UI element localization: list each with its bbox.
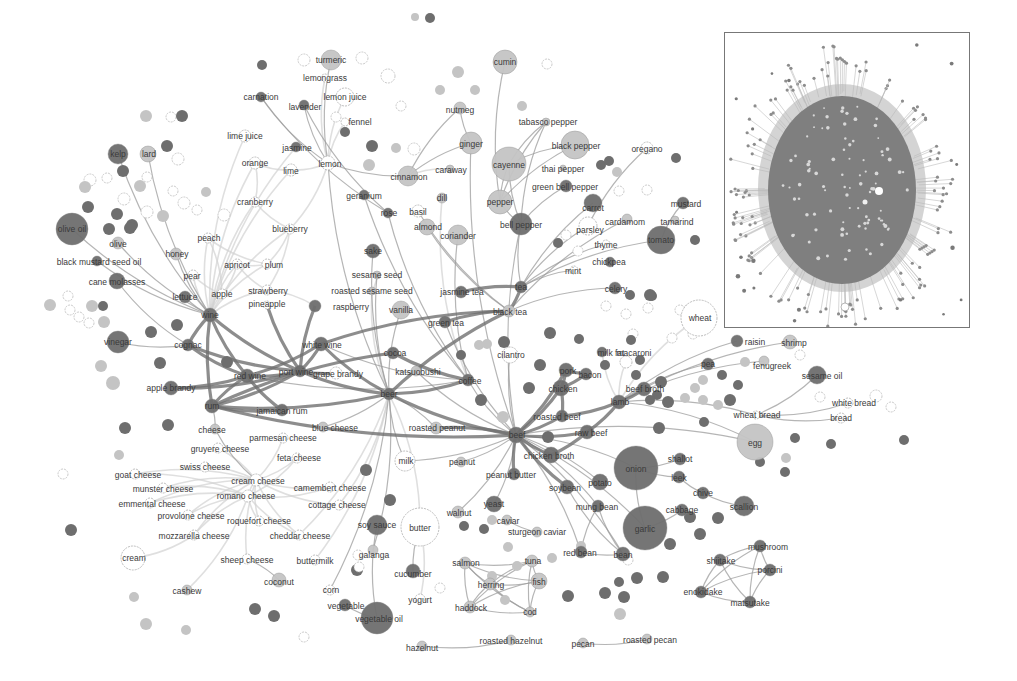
node <box>642 185 652 195</box>
node-label: chive <box>693 488 713 498</box>
node <box>498 336 510 348</box>
node-label: vanilla <box>389 305 413 315</box>
node <box>129 592 139 602</box>
node-label: cognac <box>174 340 202 350</box>
node <box>141 206 153 218</box>
node <box>612 167 622 177</box>
node <box>178 197 190 209</box>
node-label: fish <box>532 577 546 587</box>
node-label: roasted sesame seed <box>331 286 413 296</box>
node <box>145 326 157 338</box>
node-label: lard <box>142 149 156 159</box>
node-label: lemon juice <box>324 92 367 102</box>
node <box>168 186 178 196</box>
node-label: cheddar cheese <box>270 531 331 541</box>
node <box>249 603 261 615</box>
node-label: munster cheese <box>133 484 194 494</box>
node <box>299 632 309 642</box>
node <box>381 69 395 83</box>
node-label: salmon <box>452 558 480 568</box>
node-label: orange <box>242 158 269 168</box>
node <box>561 230 571 240</box>
node <box>733 380 743 390</box>
node <box>574 334 584 344</box>
node-label: tabasco pepper <box>519 117 578 127</box>
node <box>63 291 73 301</box>
node-label: lime <box>283 166 299 176</box>
edge <box>756 375 817 415</box>
node-label: grape brandy <box>313 369 364 379</box>
node <box>604 156 614 166</box>
node-label: butter <box>409 523 431 533</box>
node-label: carnation <box>244 92 279 102</box>
node-label: bread <box>830 413 852 423</box>
node-label: wheat bread <box>733 410 781 420</box>
node-label: black mustard seed oil <box>57 257 142 267</box>
node-label: raisin <box>745 337 766 347</box>
node-label: garlic <box>635 524 656 534</box>
node <box>298 54 310 66</box>
node <box>631 572 643 584</box>
node <box>356 52 368 64</box>
node <box>366 140 378 152</box>
node <box>360 464 372 476</box>
node <box>65 305 75 315</box>
edge <box>521 226 588 287</box>
node-label: beef <box>509 430 526 440</box>
node <box>503 542 513 552</box>
node-label: vegetable <box>328 601 365 611</box>
node <box>698 375 708 385</box>
node-label: shrimp <box>781 338 807 348</box>
node <box>690 383 700 393</box>
node <box>601 301 611 311</box>
node <box>475 394 487 406</box>
edge <box>371 291 389 394</box>
node <box>124 222 136 234</box>
node-label: vinegar <box>104 337 132 347</box>
node <box>111 208 123 220</box>
node <box>161 140 173 152</box>
node <box>363 159 375 171</box>
node-label: chicken <box>549 384 578 394</box>
node-label: fennel <box>348 117 371 127</box>
node-label: cane molasses <box>89 277 146 287</box>
node <box>142 172 152 182</box>
node <box>644 289 656 301</box>
node-label: beef broth <box>626 384 665 394</box>
node-label: feta cheese <box>277 453 321 463</box>
node-label: cilantro <box>497 350 525 360</box>
node-label: tamarind <box>660 217 693 227</box>
node <box>653 422 665 434</box>
node <box>340 127 350 137</box>
node-label: yeast <box>484 499 505 509</box>
node-label: provolone cheese <box>157 511 224 521</box>
node-label: coffee <box>458 376 481 386</box>
node-label: mung bean <box>576 502 619 512</box>
node-label: cashew <box>173 586 203 596</box>
node <box>408 143 420 155</box>
node-label: bean <box>614 550 633 560</box>
node-label: caviar <box>497 516 520 526</box>
node <box>154 357 166 369</box>
node-label: rose <box>381 208 398 218</box>
node-label: bell pepper <box>500 220 542 230</box>
node-label: pineapple <box>249 299 286 309</box>
node <box>84 318 94 328</box>
node <box>384 494 396 506</box>
node-label: cream <box>122 553 146 563</box>
node-label: potato <box>588 478 612 488</box>
node <box>621 309 631 319</box>
node <box>562 590 574 602</box>
node <box>645 395 655 405</box>
node <box>411 13 419 21</box>
node-label: jasmine tea <box>439 287 484 297</box>
node-label: blue cheese <box>312 423 358 433</box>
node-label: parsley <box>576 225 604 235</box>
node <box>201 187 211 197</box>
node <box>74 312 84 322</box>
edge <box>521 240 661 287</box>
node-label: fenugreek <box>753 361 792 371</box>
node-label: lettuce <box>172 292 197 302</box>
node <box>795 350 805 360</box>
node-label: cod <box>523 607 537 617</box>
